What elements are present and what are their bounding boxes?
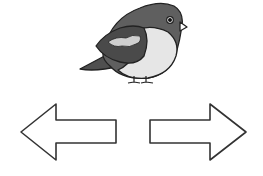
next-arrow-button[interactable]: Next — [146, 100, 248, 164]
previous-arrow-button[interactable]: Previous — [18, 100, 120, 164]
bird-icon — [80, 3, 187, 83]
arrow-left-icon — [21, 104, 116, 160]
bird-beak — [180, 22, 187, 31]
bird-illustration — [0, 0, 263, 90]
arrow-right-icon — [150, 104, 246, 160]
